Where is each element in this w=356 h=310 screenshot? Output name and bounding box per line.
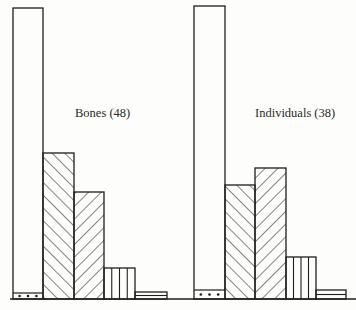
individuals-label: Individuals (38) — [255, 106, 335, 121]
individuals-bar-group — [194, 6, 346, 299]
histogram-chart — [0, 0, 356, 310]
bones-label: Bones (48) — [75, 106, 130, 121]
bar-bones-3 — [74, 192, 104, 299]
bones-bar-group — [13, 8, 167, 299]
bar-bones-1 — [13, 8, 43, 299]
bar-bones-2 — [43, 153, 74, 299]
bar-individuals-3 — [255, 168, 286, 299]
bar-individuals-1 — [194, 6, 225, 299]
bar-individuals-2 — [225, 185, 255, 299]
